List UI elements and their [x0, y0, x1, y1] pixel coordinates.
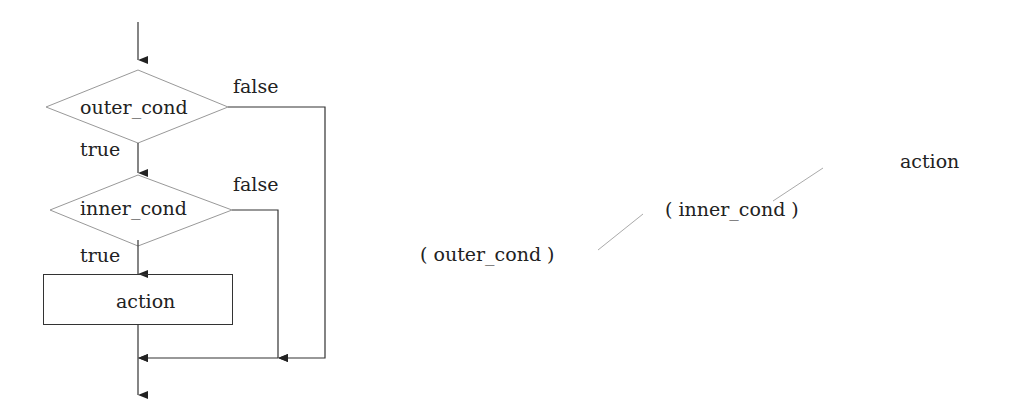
- tree-node-outer: ( outer_cond ): [420, 245, 555, 264]
- action-label: action: [116, 292, 175, 311]
- tree-edge-outer-inner: [598, 214, 643, 250]
- inner-false-label: false: [233, 175, 278, 194]
- tree-node-inner: ( inner_cond ): [665, 200, 799, 219]
- tree-node-action: action: [900, 152, 959, 171]
- outer-false-label: false: [233, 77, 278, 96]
- outer-cond-label: outer_cond: [80, 98, 188, 117]
- outer-true-label: true: [80, 140, 120, 159]
- inner-true-label: true: [80, 246, 120, 265]
- inner-false-path: [232, 210, 278, 358]
- inner-cond-label: inner_cond: [80, 199, 187, 218]
- tree-edge-inner-action: [773, 168, 823, 201]
- outer-false-path: [228, 107, 325, 358]
